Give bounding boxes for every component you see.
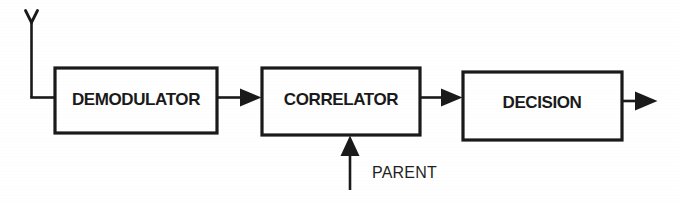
block-correlator[interactable]: CORRELATOR (262, 68, 420, 135)
output-arrow-group (622, 92, 658, 111)
parent-label: PARENT (372, 164, 437, 181)
parent-signal-group: PARENT (341, 136, 437, 191)
arrowhead-2 (441, 89, 463, 107)
input-antenna-group (26, 11, 58, 98)
arrowhead-parent (341, 136, 360, 157)
block-demodulator[interactable]: DEMODULATOR (55, 68, 217, 133)
wire-correlator-to-decision (420, 89, 463, 107)
block-decision[interactable]: DECISION (463, 72, 622, 140)
diagram-canvas: DEMODULATOR CORRELATOR DECISION (0, 0, 679, 202)
decision-label: DECISION (503, 93, 582, 112)
antenna-icon (26, 11, 38, 23)
wire-demodulator-to-correlator (217, 89, 262, 107)
block-diagram-svg: DEMODULATOR CORRELATOR DECISION (0, 0, 679, 202)
arrowhead-output (635, 92, 658, 111)
correlator-label: CORRELATOR (284, 90, 398, 109)
arrowhead-1 (240, 89, 262, 107)
demodulator-label: DEMODULATOR (72, 90, 200, 109)
